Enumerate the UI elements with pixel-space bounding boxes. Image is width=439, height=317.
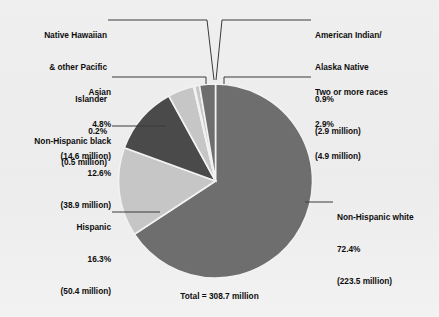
chart-canvas: Native Hawaiian & other Pacific Islander… xyxy=(0,0,439,317)
label-nh-white-name: Non-Hispanic white xyxy=(337,212,414,223)
leader-line-aian xyxy=(216,20,311,80)
leader-line-nhpi xyxy=(108,20,214,80)
label-hispanic-name: Hispanic xyxy=(61,222,111,233)
label-nhpi-name-line1: Native Hawaiian xyxy=(44,30,107,41)
label-two-or-more-name: Two or more races xyxy=(315,87,388,98)
label-nh-white-percent: 72.4% xyxy=(337,244,414,255)
label-two-or-more-races: Two or more races 2.9% (4.9 million) xyxy=(315,66,388,183)
label-nh-white-count: (223.5 million) xyxy=(337,276,414,287)
leader-line-asian xyxy=(112,77,206,84)
label-two-or-more-count: (4.9 million) xyxy=(315,151,388,162)
pie-slices-group xyxy=(119,84,313,278)
label-nh-black-name: Non-Hispanic black xyxy=(34,136,111,147)
label-two-or-more-percent: 2.9% xyxy=(315,119,388,130)
chart-total-label: Total = 308.7 million xyxy=(0,291,439,301)
label-hispanic-percent: 16.3% xyxy=(61,254,111,265)
leader-line-two-or-more xyxy=(224,77,311,84)
label-asian-name: Asian xyxy=(61,87,111,98)
label-aian-name-line1: American Indian/ xyxy=(315,30,382,41)
label-nh-black-percent: 12.6% xyxy=(34,168,111,179)
